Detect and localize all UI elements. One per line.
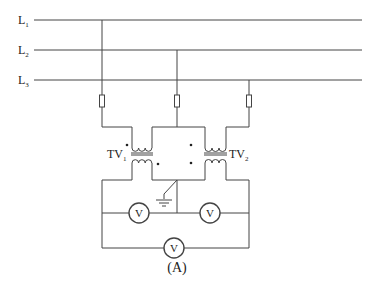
fuse-icon — [100, 95, 105, 107]
diagram-canvas: L1 L2 L3 TV1 — [0, 0, 378, 291]
label-l3: L3 — [18, 73, 29, 89]
voltmeter-icon: V — [170, 242, 178, 254]
voltmeter-icon: V — [135, 207, 143, 219]
label-tv2: TV2 — [229, 147, 249, 163]
ground-wire — [164, 180, 177, 194]
voltmeter-3: V — [164, 238, 184, 258]
label-l1: L1 — [18, 13, 29, 29]
transformer-tv2: TV2 — [190, 143, 249, 180]
fuse-drops — [100, 20, 252, 143]
fuse-icon — [247, 95, 252, 107]
figure-caption: (A) — [167, 260, 187, 276]
voltmeter-1: V — [129, 203, 149, 223]
ground-icon — [156, 200, 172, 206]
transformer-tv1: TV1 — [107, 143, 159, 180]
voltmeter-2: V — [200, 203, 220, 223]
voltmeter-icon: V — [206, 207, 214, 219]
label-tv1: TV1 — [107, 147, 127, 163]
fuse-icon — [175, 95, 180, 107]
circuit-diagram: L1 L2 L3 TV1 — [0, 0, 378, 291]
bus-labels: L1 L2 L3 — [18, 13, 29, 89]
bus-lines — [34, 20, 362, 80]
label-l2: L2 — [18, 43, 29, 59]
